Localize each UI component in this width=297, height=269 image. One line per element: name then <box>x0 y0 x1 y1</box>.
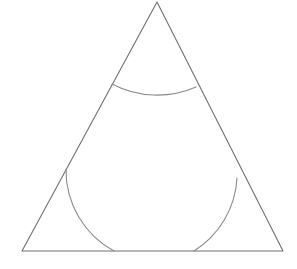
diagram-background <box>0 0 297 269</box>
figure-canvas <box>0 0 297 269</box>
triangle-arcs-diagram <box>0 0 297 269</box>
